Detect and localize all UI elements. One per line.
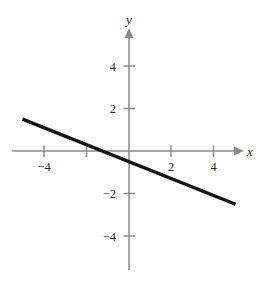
y-tick-label-4: 4 — [110, 60, 117, 74]
x-tick-label-2: 2 — [168, 160, 174, 174]
y-tick-label-neg2: −2 — [103, 187, 116, 201]
y-axis-arrow-icon — [125, 28, 134, 38]
y-axis-label: y — [124, 12, 132, 27]
x-tick-label-4: 4 — [210, 160, 217, 174]
coordinate-plane: −4 2 4 4 2 −2 −4 x y — [0, 0, 270, 282]
y-tick-label-2: 2 — [110, 102, 116, 116]
x-axis-arrow-icon — [234, 147, 244, 156]
x-tick-label-neg4: −4 — [37, 160, 51, 174]
y-tick-label-neg4: −4 — [103, 230, 117, 244]
x-axis-label: x — [246, 144, 253, 159]
graph-figure: −4 2 4 4 2 −2 −4 x y — [0, 0, 270, 282]
